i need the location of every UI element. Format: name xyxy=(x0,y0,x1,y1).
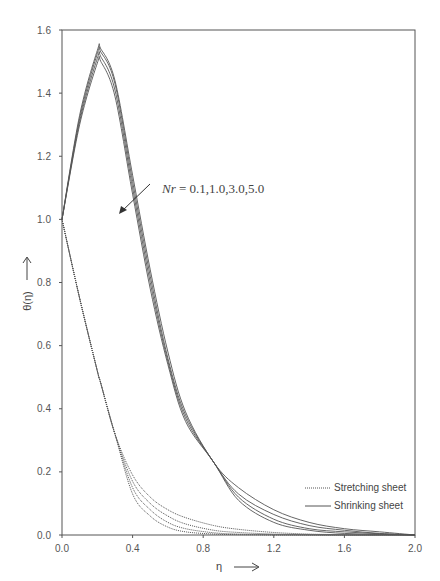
x-axis-label-group: η xyxy=(216,560,259,572)
legend-label-stretching: Stretching sheet xyxy=(334,482,406,493)
chart-canvas: 0.00.20.40.60.81.01.21.41.6 0.00.40.81.2… xyxy=(0,0,440,581)
series-line xyxy=(62,47,415,535)
legend-label-shrinking: Shrinking sheet xyxy=(334,500,403,511)
y-tick-label: 0.4 xyxy=(37,403,51,414)
y-axis-label-group: θ(η) xyxy=(21,257,33,311)
annotation-variable: Nr xyxy=(161,181,177,196)
x-tick-label: 2.0 xyxy=(408,543,422,554)
y-tick-label: 0.2 xyxy=(37,466,51,477)
y-tick-label: 0.6 xyxy=(37,340,51,351)
plot-frame xyxy=(62,30,415,535)
series-line xyxy=(62,56,415,535)
series-line xyxy=(62,52,415,535)
x-tick-label: 0.8 xyxy=(196,543,210,554)
data-series xyxy=(62,44,415,535)
legend: Stretching sheet Shrinking sheet xyxy=(305,482,406,511)
annotation-values: = 0.1,1.0,3.0,5.0 xyxy=(176,181,265,196)
y-tick-label: 0.8 xyxy=(37,277,51,288)
annotation-text: Nr = 0.1,1.0,3.0,5.0 xyxy=(161,181,264,196)
x-tick-label: 1.6 xyxy=(337,543,351,554)
y-tick-label: 0.0 xyxy=(37,530,51,541)
y-tick-label: 1.0 xyxy=(37,214,51,225)
x-tick-label: 0.0 xyxy=(55,543,69,554)
series-line xyxy=(62,44,415,535)
x-axis-label: η xyxy=(216,560,222,572)
y-axis-label: θ(η) xyxy=(21,291,33,311)
x-tick-label: 1.2 xyxy=(267,543,281,554)
x-axis-ticks: 0.00.40.81.21.62.0 xyxy=(55,535,422,554)
y-tick-label: 1.6 xyxy=(37,25,51,36)
annotation: Nr = 0.1,1.0,3.0,5.0 xyxy=(119,181,264,214)
y-axis-ticks: 0.00.20.40.60.81.01.21.41.6 xyxy=(37,25,62,541)
x-tick-label: 0.4 xyxy=(126,543,140,554)
y-tick-label: 1.2 xyxy=(37,151,51,162)
y-tick-label: 1.4 xyxy=(37,88,51,99)
